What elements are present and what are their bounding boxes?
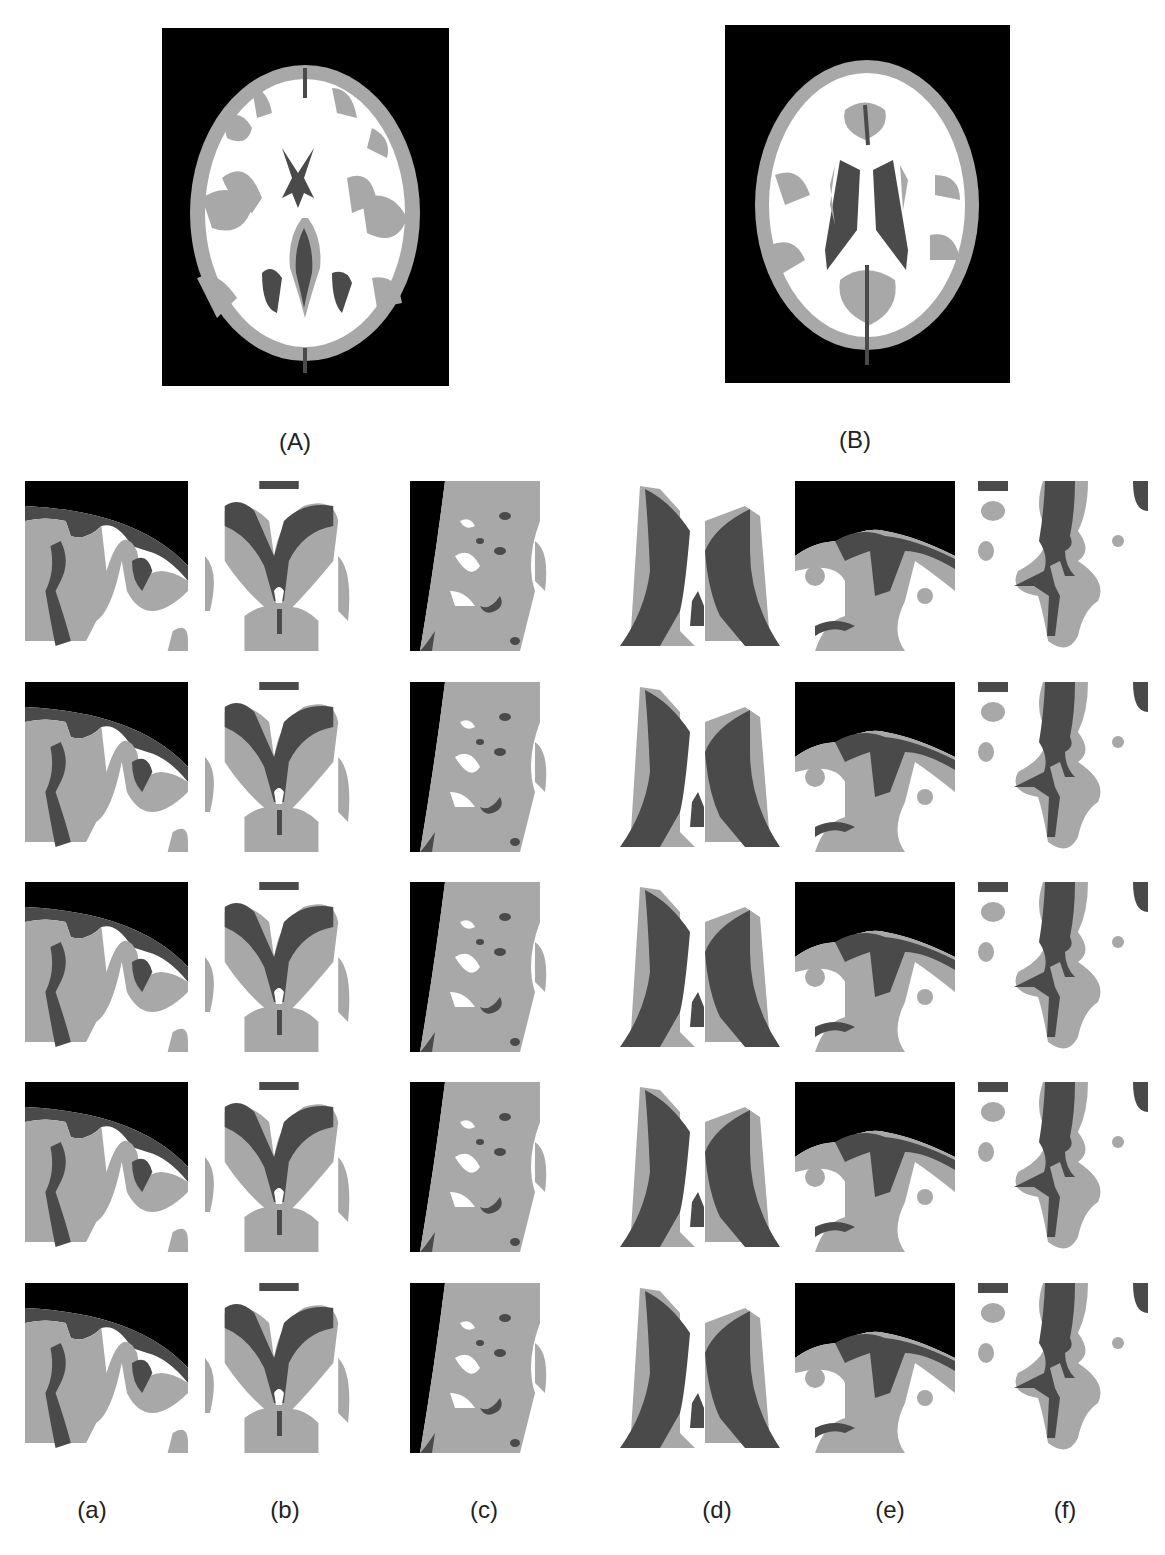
crop-row3-col-f bbox=[978, 882, 1148, 1052]
crop-row3-col-b bbox=[205, 882, 353, 1052]
crop-row2-col-f bbox=[978, 682, 1148, 852]
crop-row1-col-d bbox=[620, 481, 780, 651]
crop-row3-col-a bbox=[25, 882, 188, 1052]
crop-row3-col-e bbox=[795, 882, 955, 1052]
column-label-a: (a) bbox=[62, 1496, 122, 1524]
column-label-b: (b) bbox=[255, 1496, 315, 1524]
crop-row5-col-c bbox=[410, 1283, 550, 1453]
crop-row4-col-e bbox=[795, 1082, 955, 1252]
crop-row2-col-b bbox=[205, 682, 353, 852]
crop-row1-col-a bbox=[25, 481, 188, 651]
crop-row2-col-d bbox=[620, 682, 780, 852]
crop-row3-col-c bbox=[410, 882, 550, 1052]
crop-row1-col-b bbox=[205, 481, 353, 651]
panel-B-image bbox=[725, 25, 1010, 383]
crop-row5-col-a bbox=[25, 1283, 188, 1453]
crop-row4-col-b bbox=[205, 1082, 353, 1252]
crop-row5-col-b bbox=[205, 1283, 353, 1453]
panel-B-label: (B) bbox=[815, 426, 895, 454]
crop-row2-col-e bbox=[795, 682, 955, 852]
column-label-d: (d) bbox=[687, 1496, 747, 1524]
crop-row1-col-c bbox=[410, 481, 550, 651]
crop-row4-col-f bbox=[978, 1082, 1148, 1252]
crop-row5-col-d bbox=[620, 1283, 780, 1453]
crop-row3-col-d bbox=[620, 882, 780, 1052]
column-label-e: (e) bbox=[860, 1496, 920, 1524]
column-label-c: (c) bbox=[454, 1496, 514, 1524]
crop-row1-col-f bbox=[978, 481, 1148, 651]
crop-row1-col-e bbox=[795, 481, 955, 651]
crop-row5-col-f bbox=[978, 1283, 1148, 1453]
crop-row4-col-d bbox=[620, 1082, 780, 1252]
crop-row4-col-a bbox=[25, 1082, 188, 1252]
crop-row2-col-a bbox=[25, 682, 188, 852]
crop-row4-col-c bbox=[410, 1082, 550, 1252]
panel-A-label: (A) bbox=[255, 428, 335, 456]
crop-row2-col-c bbox=[410, 682, 550, 852]
crop-row5-col-e bbox=[795, 1283, 955, 1453]
column-label-f: (f) bbox=[1035, 1496, 1095, 1524]
panel-A-image bbox=[162, 28, 449, 386]
